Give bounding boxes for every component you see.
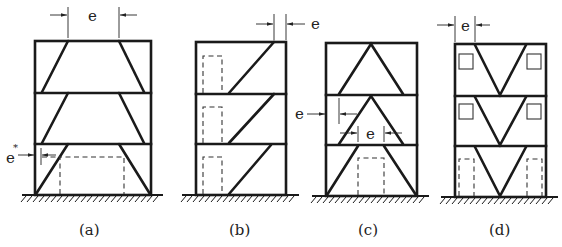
ground-hatch-line: [229, 196, 234, 202]
ground-hatch-line: [542, 198, 547, 204]
ground-hatch-line: [265, 196, 270, 202]
ground-hatch-line: [383, 197, 388, 203]
ground-hatch-line: [81, 196, 86, 202]
ground-hatch-line: [407, 197, 412, 203]
ground-hatch-line: [111, 196, 116, 202]
ground-hatch-line: [141, 196, 146, 202]
label-e-a: e: [88, 7, 97, 25]
ground-hatch-line: [458, 198, 463, 204]
ground-hatch-line: [277, 196, 282, 202]
ground-hatch-line: [401, 197, 406, 203]
ground-hatch-line: [452, 198, 457, 204]
frame-outline-a: [35, 41, 151, 195]
ground-hatch-line: [223, 196, 228, 202]
ground-hatch-line: [123, 196, 128, 202]
ground-hatch-line: [57, 196, 62, 202]
label-star-a: *: [13, 142, 18, 153]
ground-hatch-line: [51, 196, 56, 202]
ground-hatch-line: [283, 196, 288, 202]
ground-hatch-line: [93, 196, 98, 202]
ground-hatch-line: [181, 196, 186, 202]
ground-hatch-line: [45, 196, 50, 202]
ground-hatch-line: [317, 197, 322, 203]
ground-hatch-line: [500, 198, 505, 204]
ground-hatch-line: [271, 196, 276, 202]
door-opening-a: [60, 157, 124, 194]
ground-hatch-line: [247, 196, 252, 202]
label-e-b: e: [311, 15, 320, 33]
ground-hatch-line: [259, 196, 264, 202]
ground-hatch-line: [464, 198, 469, 204]
ground-hatch-line: [323, 197, 328, 203]
ground-hatch-line: [536, 198, 541, 204]
door-openings-d: [459, 159, 542, 196]
dimension-e-star-a: e *: [6, 142, 56, 167]
ground-hatch-line: [253, 196, 258, 202]
ground-hatch-line: [27, 196, 32, 202]
ground-hatch-line: [117, 196, 122, 202]
panel-d: e (d): [437, 16, 558, 239]
caption-c: (c): [358, 221, 378, 239]
ground-hatch-line: [530, 198, 535, 204]
ground-hatch-line: [440, 198, 445, 204]
frame-outline-b: [196, 42, 286, 195]
eccentric-braced-frames-diagram: e e * (a): [0, 0, 562, 247]
caption-d: (d): [489, 221, 510, 239]
ground-hatch-line: [413, 197, 418, 203]
panel-a: e e * (a): [6, 7, 163, 239]
door-opening-c: [358, 158, 384, 195]
caption-b: (b): [229, 221, 250, 239]
ground-hatch-line: [494, 198, 499, 204]
ground-hatch-line: [470, 198, 475, 204]
ground-hatch-line: [69, 196, 74, 202]
ground-hatch-line: [476, 198, 481, 204]
ground-hatch-line: [482, 198, 487, 204]
ground-hatch-line: [205, 196, 210, 202]
ground-hatch-line: [347, 197, 352, 203]
dimension-e-d: e: [437, 16, 490, 42]
ground-hatch-line: [446, 198, 451, 204]
panel-b: e (b): [181, 14, 320, 239]
ground-hatch-line: [518, 198, 523, 204]
dimension-e-b: e: [256, 14, 320, 40]
ground-hatch-line: [193, 196, 198, 202]
ground-hatch-line: [105, 196, 110, 202]
ground-hatch-line: [217, 196, 222, 202]
braces-a: [36, 41, 150, 194]
ground-hatch-line: [99, 196, 104, 202]
ground-hatch-line: [241, 196, 246, 202]
ground-hatch-line: [153, 196, 158, 202]
ground-hatch-line: [63, 196, 68, 202]
label-e-c-mid: e: [366, 125, 375, 143]
frame-outline-d: [455, 44, 546, 197]
ground-hatch-line: [335, 197, 340, 203]
ground-hatch-line: [329, 197, 334, 203]
caption-a: (a): [79, 221, 100, 239]
ground-hatch-line: [187, 196, 192, 202]
ground-hatch-line: [395, 197, 400, 203]
ground-hatch-line: [524, 198, 529, 204]
ground-hatch-line: [365, 197, 370, 203]
braces-c: [327, 44, 416, 195]
braces-b: [229, 42, 274, 194]
ground-hatch-line: [289, 196, 294, 202]
braces-d: [475, 45, 526, 196]
ground-hatch-line: [353, 197, 358, 203]
ground-hatch-line: [21, 196, 26, 202]
ground-hatch-line: [235, 196, 240, 202]
ground-hatch-line: [548, 198, 553, 204]
ground-hatch-line: [135, 196, 140, 202]
ground-hatch-line: [75, 196, 80, 202]
ground-hatch-line: [129, 196, 134, 202]
ground-hatch-line: [199, 196, 204, 202]
ground-hatch-line: [341, 197, 346, 203]
panel-c: e e (c): [295, 43, 429, 239]
ground-hatch-line: [211, 196, 216, 202]
ground-hatch-line: [87, 196, 92, 202]
ground-hatch-line: [377, 197, 382, 203]
ground-hatch-line: [33, 196, 38, 202]
ground-hatch-line: [488, 198, 493, 204]
ground-hatch-line: [311, 197, 316, 203]
ground-hatch-line: [389, 197, 394, 203]
windows-d: [459, 54, 541, 119]
